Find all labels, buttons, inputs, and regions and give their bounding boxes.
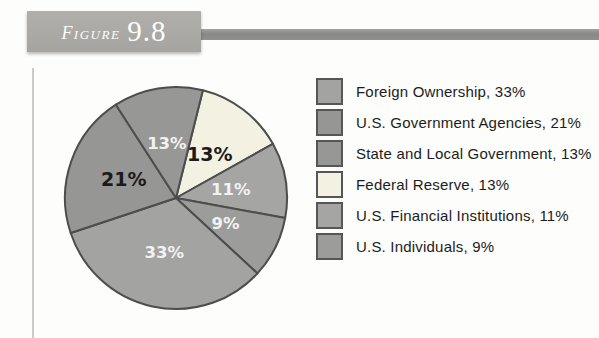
pie-label-u-s-government-agencies: 21%	[101, 168, 146, 190]
legend-label: State and Local Government, 13%	[356, 145, 592, 162]
figure-header-tag: Figure 9.8	[27, 11, 201, 52]
pie-label-u-s-financial-institutions: 11%	[211, 180, 251, 199]
legend-label: U.S. Individuals, 9%	[356, 238, 494, 255]
legend-swatch-icon	[316, 233, 343, 260]
figure-header-rule	[200, 29, 599, 40]
legend-swatch-icon	[316, 109, 343, 136]
legend-item-u-s-financial-institutions: U.S. Financial Institutions, 11%	[316, 202, 592, 229]
legend-label: U.S. Financial Institutions, 11%	[356, 207, 569, 224]
pie-chart: 13%11%9%33%21%13%	[51, 73, 301, 323]
legend-label: Foreign Ownership, 33%	[356, 83, 525, 100]
legend-label: U.S. Government Agencies, 21%	[356, 114, 581, 131]
legend-item-u-s-government-agencies: U.S. Government Agencies, 21%	[316, 109, 592, 136]
legend-item-federal-reserve: Federal Reserve, 13%	[316, 171, 592, 198]
pie-label-state-and-local-government: 13%	[147, 134, 187, 153]
figure-header-number: 9.8	[127, 15, 166, 48]
legend-item-state-and-local-government: State and Local Government, 13%	[316, 140, 592, 167]
legend-swatch-icon	[316, 171, 343, 198]
chart-legend: Foreign Ownership, 33%U.S. Government Ag…	[316, 78, 592, 260]
pie-label-u-s-individuals: 9%	[212, 214, 240, 233]
legend-swatch-icon	[316, 202, 343, 229]
pie-chart-container: 13%11%9%33%21%13%	[51, 73, 301, 323]
figure-header-label: Figure	[61, 20, 120, 44]
figure-left-border	[32, 68, 34, 338]
legend-swatch-icon	[316, 140, 343, 167]
legend-label: Federal Reserve, 13%	[356, 176, 509, 193]
pie-label-federal-reserve: 13%	[187, 143, 232, 165]
legend-item-foreign-ownership: Foreign Ownership, 33%	[316, 78, 592, 105]
legend-item-u-s-individuals: U.S. Individuals, 9%	[316, 233, 592, 260]
pie-label-foreign-ownership: 33%	[145, 243, 185, 262]
legend-swatch-icon	[316, 78, 343, 105]
